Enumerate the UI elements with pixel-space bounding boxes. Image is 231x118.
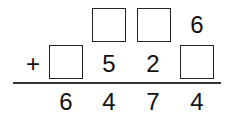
blank-box-row2-col1[interactable] <box>49 45 83 79</box>
result-digit-1: 6 <box>51 90 81 114</box>
result-digit-3: 7 <box>138 90 168 114</box>
digit-row2-col3: 2 <box>138 52 168 76</box>
blank-box-row2-col4[interactable] <box>180 45 214 79</box>
digit-row2-col2: 5 <box>94 52 124 76</box>
sum-line <box>13 82 221 84</box>
blank-box-row1-col3[interactable] <box>137 8 171 42</box>
result-digit-4: 4 <box>182 90 212 114</box>
blank-box-row1-col2[interactable] <box>92 8 126 42</box>
result-digit-2: 4 <box>94 90 124 114</box>
plus-sign: + <box>18 52 48 76</box>
addition-puzzle: 6 + 5 2 6 4 7 4 <box>0 0 231 118</box>
digit-row1-col4: 6 <box>182 13 212 37</box>
